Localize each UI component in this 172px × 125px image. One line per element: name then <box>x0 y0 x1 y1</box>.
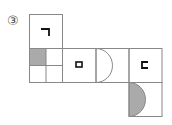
cell-top <box>30 15 63 49</box>
shaded-quadrant <box>30 49 47 66</box>
cell-right <box>129 49 162 83</box>
cube-net-diagram <box>0 0 172 125</box>
giyeok-glyph <box>41 29 49 36</box>
semicircle-outline <box>96 49 112 83</box>
shaded-semicircle <box>129 83 146 117</box>
digeut-glyph <box>142 62 148 68</box>
cell-middle <box>63 49 97 83</box>
mieum-glyph <box>76 62 82 67</box>
